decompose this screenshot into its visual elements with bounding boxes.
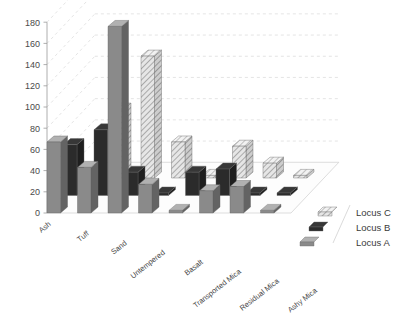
bar: [141, 50, 162, 178]
bar: [139, 178, 160, 213]
bar: [230, 181, 251, 214]
bar: [263, 157, 284, 178]
bar-chart-3d: 020406080100120140160180 AshTuffSandUnte…: [0, 0, 415, 328]
y-axis-tick-label: 60: [30, 145, 40, 155]
bar: [78, 161, 99, 213]
y-axis-tick-label: 80: [30, 124, 40, 134]
legend-label: Locus C: [356, 207, 391, 218]
legend-label: Locus B: [356, 222, 390, 233]
bar: [108, 20, 129, 213]
y-axis-tick-label: 40: [30, 166, 40, 176]
y-axis-tick-label: 160: [25, 39, 40, 49]
y-axis-tick-label: 120: [25, 81, 40, 91]
legend-label: Locus A: [356, 237, 390, 248]
chart-container: 020406080100120140160180 AshTuffSandUnte…: [0, 0, 415, 328]
y-axis-tick-label: 140: [25, 60, 40, 70]
bar: [47, 136, 68, 213]
y-axis-tick-label: 100: [25, 102, 40, 112]
y-axis-tick-label: 0: [35, 208, 40, 218]
bar: [200, 185, 221, 213]
y-axis-tick-label: 180: [25, 18, 40, 28]
y-axis-tick-label: 20: [30, 187, 40, 197]
